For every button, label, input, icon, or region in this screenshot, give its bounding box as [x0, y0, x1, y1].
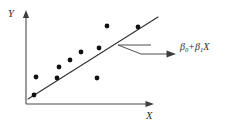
- y-axis-label: Y: [8, 9, 14, 20]
- beta-one-subscript: 1: [200, 46, 203, 53]
- x-axis-label: X: [146, 111, 152, 122]
- data-point: [95, 76, 100, 81]
- x-axis-arrowhead: [146, 101, 155, 107]
- figure-canvas: [0, 0, 227, 126]
- regression-figure: Y X β0+β1X: [0, 0, 227, 126]
- data-point: [136, 25, 141, 30]
- data-point: [79, 50, 84, 55]
- y-axis-arrowhead: [23, 10, 29, 18]
- data-point: [57, 65, 62, 70]
- data-point: [55, 76, 60, 81]
- data-point: [105, 24, 110, 29]
- data-point: [97, 46, 102, 51]
- data-point: [68, 58, 73, 63]
- regression-equation-label: β0+β1X: [180, 42, 209, 52]
- plus-operator: +: [188, 41, 195, 52]
- equation-variable: X: [203, 41, 209, 52]
- annotation-leader-line: [118, 45, 167, 54]
- annotation-leader-arrowhead: [167, 51, 177, 58]
- data-point: [34, 75, 39, 80]
- beta-zero-subscript: 0: [185, 46, 188, 53]
- data-point: [32, 93, 37, 98]
